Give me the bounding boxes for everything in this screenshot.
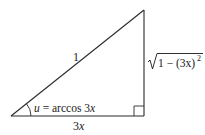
opposite-radicand: 1 − (3x)	[158, 57, 195, 70]
hypotenuse-label: 1	[73, 50, 79, 64]
angle-arc	[27, 104, 32, 116]
adjacent-x: x	[78, 119, 85, 133]
adjacent-label: 3x	[73, 119, 85, 133]
triangle-diagram: 1 1 − (3x) 2 u = arccos 3x 3x	[0, 0, 205, 135]
angle-x: x	[89, 102, 96, 114]
opposite-exponent: 2	[197, 54, 201, 63]
right-angle-marker	[134, 106, 144, 116]
angle-expression: = arccos 3	[40, 102, 90, 114]
angle-label: u = arccos 3x	[34, 102, 96, 114]
opposite-label: 1 − (3x) 2	[148, 54, 203, 71]
